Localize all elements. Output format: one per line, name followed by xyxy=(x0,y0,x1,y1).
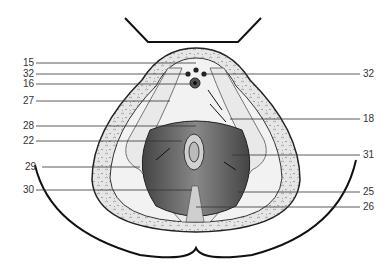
label-26: 26 xyxy=(363,202,374,212)
label-30: 30 xyxy=(14,185,34,195)
label-31: 31 xyxy=(363,150,374,160)
label-18: 18 xyxy=(363,114,374,124)
label-28: 28 xyxy=(14,121,34,131)
label-16: 16 xyxy=(14,79,34,89)
diagram-drawing xyxy=(0,0,392,273)
label-15: 15 xyxy=(14,58,34,68)
label-25: 25 xyxy=(363,187,374,197)
label-27: 27 xyxy=(14,96,34,106)
anatomy-diagram: 15 32 16 27 28 22 29 30 32 18 31 25 26 xyxy=(0,0,392,273)
top-contour xyxy=(125,18,261,42)
label-32-right: 32 xyxy=(363,69,374,79)
label-22: 22 xyxy=(14,136,34,146)
label-29: 29 xyxy=(16,162,36,172)
